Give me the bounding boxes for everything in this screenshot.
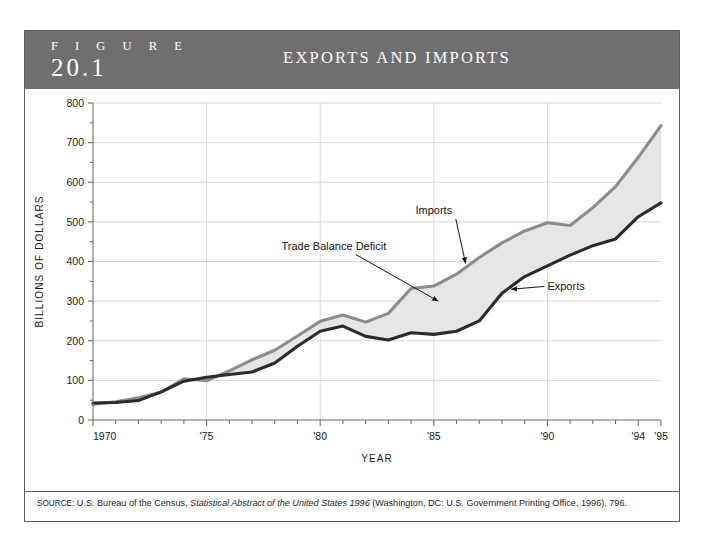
y-tick-label: 0 — [78, 414, 84, 426]
annotation-label: Exports — [547, 280, 585, 292]
y-tick-label: 400 — [66, 255, 84, 267]
figure-title: EXPORTS AND IMPORTS — [25, 48, 679, 68]
x-tick-label: '75 — [200, 430, 214, 442]
source-bar: SOURCE: U.S. Bureau of the Census, Stati… — [25, 491, 679, 521]
y-tick-label: 700 — [66, 136, 84, 148]
exports-imports-chart: 0100200300400500600700800 1970'75'80'85'… — [25, 89, 679, 493]
y-tick-label: 800 — [66, 97, 84, 109]
gridlines — [93, 103, 661, 420]
x-axis-label: YEAR — [361, 453, 393, 464]
y-axis-ticks: 0100200300400500600700800 — [66, 97, 93, 426]
source-title-italic: Statistical Abstract of the United State… — [190, 498, 370, 508]
figure-header: F I G U R E 20.1 EXPORTS AND IMPORTS — [25, 31, 679, 89]
source-text-1: U.S. Bureau of the Census, — [74, 498, 190, 508]
source-text-2: (Washington, DC: U.S. Government Printin… — [370, 498, 627, 508]
y-tick-label: 500 — [66, 216, 84, 228]
annotation-label: Imports — [415, 204, 452, 216]
x-tick-label: '90 — [541, 430, 555, 442]
y-axis-label: BILLIONS OF DOLLARS — [34, 195, 45, 327]
annotation-label: Trade Balance Deficit — [281, 240, 386, 252]
y-tick-label: 100 — [66, 374, 84, 386]
trade-balance-deficit-band — [93, 126, 661, 405]
x-tick-label: '94 — [631, 430, 645, 442]
series-lines — [93, 126, 661, 405]
source-note: SOURCE: U.S. Bureau of the Census, Stati… — [37, 498, 671, 508]
source-prefix: SOURCE: — [37, 499, 74, 508]
x-axis-ticks: 1970'75'80'85'90'94'95 — [93, 420, 668, 442]
figure-box: F I G U R E 20.1 EXPORTS AND IMPORTS 010… — [24, 30, 680, 522]
x-tick-label: '95 — [654, 430, 668, 442]
y-tick-label: 200 — [66, 335, 84, 347]
y-tick-label: 600 — [66, 176, 84, 188]
x-tick-label: '80 — [313, 430, 327, 442]
y-tick-label: 300 — [66, 295, 84, 307]
x-tick-label: 1970 — [93, 430, 117, 442]
x-tick-label: '85 — [427, 430, 441, 442]
chart-area: 0100200300400500600700800 1970'75'80'85'… — [25, 89, 679, 493]
